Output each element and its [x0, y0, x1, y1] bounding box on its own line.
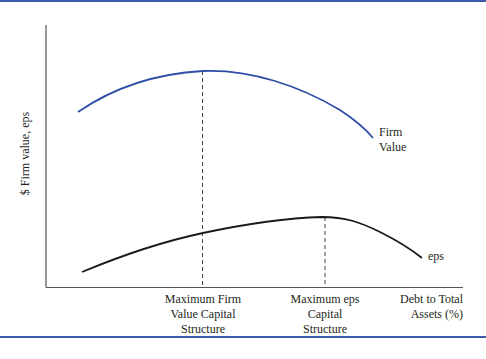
bottom-rule: [0, 336, 486, 338]
eps-curve-label: eps: [428, 249, 444, 264]
max-firm-value-label: Maximum Firm Value Capital Structure: [143, 292, 263, 337]
eps-curve: [82, 217, 422, 272]
x-axis-label: Debt to Total Assets (%): [373, 292, 463, 322]
firm-value-curve: [78, 71, 373, 138]
y-axis-label: $ Firm value, eps: [18, 108, 33, 200]
max-eps-label: Maximum eps Capital Structure: [275, 292, 375, 337]
firm-value-curve-label: Firm Value: [379, 125, 406, 155]
